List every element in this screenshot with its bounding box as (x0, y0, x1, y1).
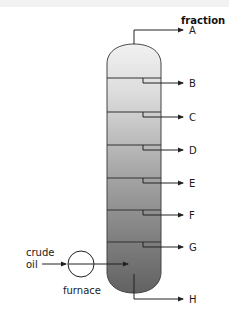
label-a: A (189, 25, 196, 36)
label-g: G (189, 242, 197, 253)
crude-label: crude (26, 247, 54, 258)
distillation-column (107, 44, 161, 293)
label-d: D (189, 145, 197, 156)
label-c: C (189, 112, 196, 123)
fraction-heading: fraction (181, 15, 225, 26)
outlet-a (134, 30, 183, 44)
label-f: F (189, 210, 195, 221)
label-b: B (189, 78, 196, 89)
label-e: E (189, 178, 195, 189)
fractional-distillation-diagram: fraction A B C D E F G H crude oil furna… (0, 0, 229, 329)
label-h: H (189, 294, 197, 305)
furnace-label: furnace (63, 285, 101, 296)
oil-label: oil (26, 259, 38, 270)
